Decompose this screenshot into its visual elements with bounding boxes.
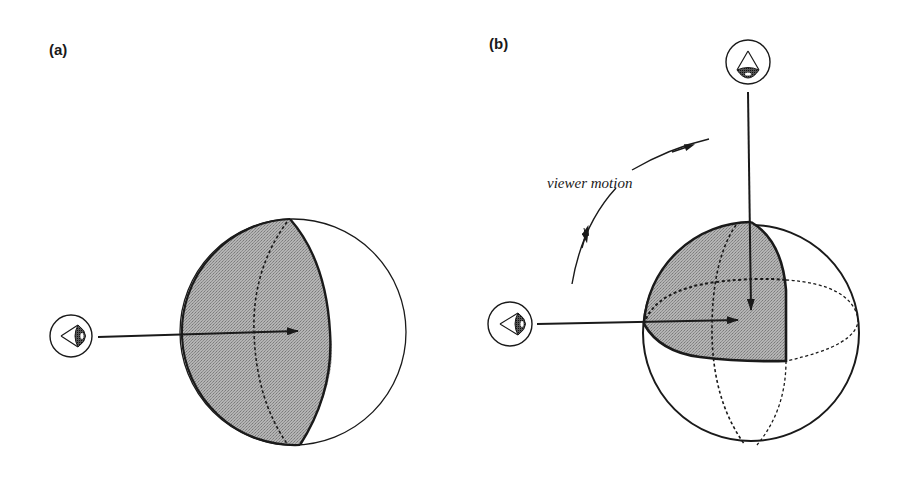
eye-icon — [726, 40, 770, 84]
figure: (a) (b) — [0, 0, 905, 485]
panel-b-label: (b) — [489, 35, 508, 52]
eye-icon — [488, 302, 532, 346]
panel-a-label: (a) — [49, 41, 67, 58]
viewer-motion-arc-top — [632, 139, 709, 170]
panel-b: (b) viewer motion — [488, 35, 859, 445]
viewer-motion-label: viewer motion — [547, 175, 632, 191]
eye-icon — [50, 315, 92, 357]
panel-a: (a) — [49, 41, 406, 445]
viewer-motion-arc — [572, 188, 616, 284]
visible-region-b — [644, 222, 786, 361]
